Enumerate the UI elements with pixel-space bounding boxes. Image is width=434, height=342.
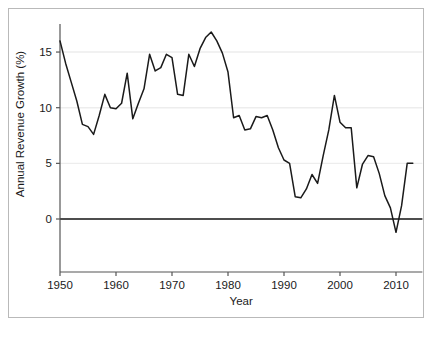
y-tick-label: 15 [39, 46, 52, 58]
x-tick-label: 1980 [215, 279, 241, 291]
x-axis-title: Year [230, 295, 253, 307]
y-tick-label: 0 [46, 213, 52, 225]
x-tick-label: 2010 [383, 279, 409, 291]
chart-figure: 0510151950196019701980199020002010YearAn… [0, 0, 434, 342]
x-tick-label: 1960 [103, 279, 129, 291]
data-line-annual-revenue-growth [60, 32, 413, 232]
line-chart-plot: 0510151950196019701980199020002010YearAn… [0, 0, 434, 342]
y-tick-label: 5 [46, 157, 52, 169]
x-tick-label: 1970 [159, 279, 185, 291]
y-axis-title: Annual Revenue Growth (%) [14, 51, 26, 198]
x-tick-label: 2000 [327, 279, 353, 291]
x-tick-label: 1950 [47, 279, 73, 291]
x-tick-label: 1990 [271, 279, 297, 291]
y-tick-label: 10 [39, 102, 52, 114]
